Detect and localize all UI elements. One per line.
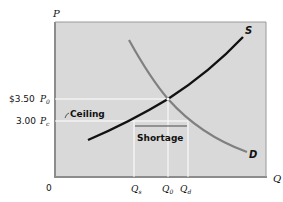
y-tick-value-pc: 3.00 xyxy=(16,116,36,126)
supply-label: S xyxy=(245,25,252,36)
x-axis-title: Q xyxy=(273,173,281,184)
ceiling-annotation: Ceiling xyxy=(70,109,105,119)
y-axis-title: P xyxy=(52,8,60,19)
x-tick-qs: Qs xyxy=(131,184,141,195)
y-tick-value-p0: $3.50 xyxy=(9,94,35,104)
x-tick-qd: Qd xyxy=(180,184,191,195)
y-tick-symbol-pc: Pc xyxy=(39,116,50,127)
price-ceiling-chart: S D P Q 0 $3.50 P0 3.00 Pc Qs Q0 Qd Ceil… xyxy=(0,0,283,202)
equilibrium-point xyxy=(166,97,169,100)
origin-label: 0 xyxy=(46,183,52,193)
demand-label: D xyxy=(249,149,257,160)
y-tick-symbol-p0: P0 xyxy=(39,94,50,105)
x-tick-q0: Q0 xyxy=(162,184,173,195)
shortage-annotation: Shortage xyxy=(137,133,183,143)
